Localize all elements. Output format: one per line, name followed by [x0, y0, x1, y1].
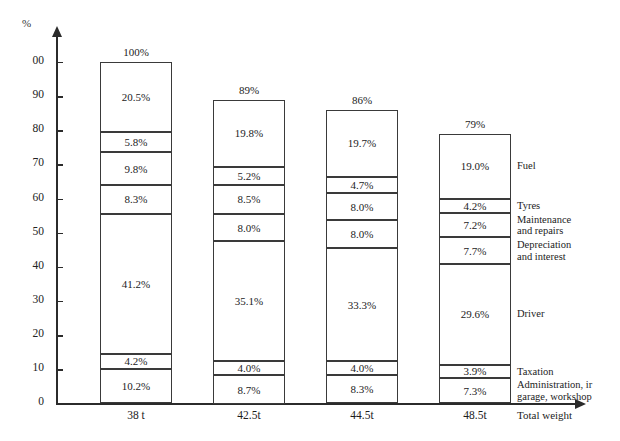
bar-segment-value-label: 35.1% — [235, 295, 263, 307]
y-axis-tick-mark — [56, 369, 63, 370]
bar-segment-value-label: 19.7% — [348, 137, 376, 149]
y-axis-unit-label: % — [22, 17, 31, 29]
y-axis-tick-label: 20 — [33, 327, 45, 339]
bar-segment-value-label: 41.2% — [122, 278, 150, 290]
bar-total-label: 89% — [213, 84, 285, 96]
bar-segment[interactable]: 19.8% — [213, 100, 285, 168]
legend-item: Administration, ir garage, workshop — [517, 379, 592, 402]
bar-total-label: 79% — [439, 118, 511, 130]
y-axis-tick-label: 40 — [33, 259, 45, 271]
bar-segment[interactable]: 8.5% — [213, 185, 285, 214]
bar-segment-value-label: 4.2% — [125, 355, 148, 367]
y-axis-tick-label: 0 — [38, 395, 44, 407]
bar-segment-value-label: 19.8% — [235, 127, 263, 139]
bar-segment[interactable]: 4.0% — [213, 361, 285, 375]
y-axis-tick-mark — [56, 130, 63, 131]
bar-segment[interactable]: 8.0% — [213, 214, 285, 241]
bar-segment[interactable]: 33.3% — [326, 248, 398, 362]
bar-segment-value-label: 7.2% — [464, 219, 487, 231]
bar-segment-value-label: 4.2% — [464, 200, 487, 212]
bar-segment[interactable]: 8.7% — [213, 375, 285, 405]
y-axis-tick-label: 10 — [33, 361, 45, 373]
y-axis-tick-mark — [56, 199, 63, 200]
y-axis-tick-mark — [56, 267, 63, 268]
bar-segment[interactable]: 8.3% — [100, 185, 172, 213]
bar-segment[interactable]: 19.0% — [439, 134, 511, 199]
x-axis-category-label: 42.5t — [191, 409, 307, 421]
x-axis-category-label: 44.5t — [304, 409, 420, 421]
bar-segment-value-label: 5.8% — [125, 136, 148, 148]
x-axis-category-label: 38 t — [78, 409, 194, 421]
bar-segment[interactable]: 8.0% — [326, 193, 398, 220]
bar-segment[interactable]: 4.2% — [439, 199, 511, 213]
bar-column[interactable]: 19.0%4.2%7.2%7.7%29.6%3.9%7.3%79% — [439, 134, 511, 404]
bar-column[interactable]: 19.7%4.7%8.0%8.0%33.3%4.0%8.3%86% — [326, 110, 398, 404]
bar-segment-value-label: 4.7% — [351, 179, 374, 191]
bar-segment[interactable]: 9.8% — [100, 152, 172, 185]
bar-total-label: 100% — [100, 46, 172, 58]
bar-segment-value-label: 8.0% — [351, 201, 374, 213]
y-axis-tick-mark — [56, 335, 63, 336]
stacked-bar-chart: % 010203040506070809000 38 t20.5%5.8%9.8… — [0, 0, 620, 441]
bar-segment-value-label: 33.3% — [348, 299, 376, 311]
bar-segment[interactable]: 19.7% — [326, 110, 398, 177]
legend-item: Depreciation and interest — [517, 239, 571, 262]
y-axis-tick-label: 70 — [33, 156, 45, 168]
y-axis-tick-label: 00 — [33, 54, 45, 66]
bar-segment-value-label: 19.0% — [461, 160, 489, 172]
bar-column[interactable]: 20.5%5.8%9.8%8.3%41.2%4.2%10.2%100% — [100, 62, 172, 403]
bar-segment-value-label: 9.8% — [125, 163, 148, 175]
bar-segment-value-label: 20.5% — [122, 91, 150, 103]
bar-segment-value-label: 7.7% — [464, 245, 487, 257]
x-axis-title: Total weight — [517, 409, 572, 421]
bar-segment-value-label: 8.3% — [351, 383, 374, 395]
y-axis-tick-mark — [56, 96, 63, 97]
bar-segment[interactable]: 29.6% — [439, 264, 511, 365]
bar-total-label: 86% — [326, 94, 398, 106]
y-axis-tick-label: 90 — [33, 88, 45, 100]
bar-column[interactable]: 19.8%5.2%8.5%8.0%35.1%4.0%8.7%89% — [213, 100, 285, 404]
legend-item: Tyres — [517, 200, 540, 212]
bar-segment[interactable]: 7.3% — [439, 378, 511, 403]
bar-segment[interactable]: 7.2% — [439, 213, 511, 238]
bar-segment-value-label: 7.3% — [464, 385, 487, 397]
bar-segment[interactable]: 10.2% — [100, 369, 172, 404]
bar-segment[interactable]: 4.2% — [100, 354, 172, 368]
bar-segment-value-label: 8.0% — [351, 228, 374, 240]
bar-segment-value-label: 8.7% — [238, 384, 261, 396]
bar-segment-value-label: 10.2% — [122, 380, 150, 392]
bar-segment-value-label: 5.2% — [238, 170, 261, 182]
bar-segment[interactable]: 4.7% — [326, 177, 398, 193]
bar-segment-value-label: 3.9% — [464, 365, 487, 377]
bar-segment[interactable]: 4.0% — [326, 361, 398, 375]
y-axis-tick-mark — [56, 301, 63, 302]
legend-item: Maintenance and repairs — [517, 214, 571, 237]
y-axis-tick-label: 50 — [33, 225, 45, 237]
y-axis-tick-label: 60 — [33, 191, 45, 203]
bar-segment[interactable]: 8.0% — [326, 220, 398, 247]
bar-segment[interactable]: 3.9% — [439, 365, 511, 378]
legend-item: Fuel — [517, 160, 536, 172]
y-axis-tick-mark — [56, 164, 63, 165]
y-axis-tick-label: 30 — [33, 293, 45, 305]
x-axis-category-label: 48.5t — [417, 409, 533, 421]
y-axis-arrow-icon — [52, 26, 62, 37]
bar-segment[interactable]: 5.2% — [213, 167, 285, 185]
bar-segment-value-label: 29.6% — [461, 308, 489, 320]
y-axis-line — [56, 34, 58, 404]
bar-segment[interactable]: 41.2% — [100, 214, 172, 355]
bar-segment[interactable]: 20.5% — [100, 62, 172, 132]
y-axis-tick-mark — [56, 62, 63, 63]
y-axis-tick-mark — [56, 233, 63, 234]
bar-segment[interactable]: 8.3% — [326, 375, 398, 403]
bar-segment-value-label: 4.0% — [351, 362, 374, 374]
bar-segment-value-label: 8.5% — [238, 193, 261, 205]
legend-item: Taxation — [517, 366, 554, 378]
legend-item: Driver — [517, 308, 544, 320]
bar-segment[interactable]: 7.7% — [439, 237, 511, 263]
bar-segment[interactable]: 35.1% — [213, 241, 285, 361]
bar-segment-value-label: 8.3% — [125, 193, 148, 205]
y-axis-tick-mark — [56, 403, 63, 404]
bar-segment[interactable]: 5.8% — [100, 132, 172, 152]
x-axis-line — [56, 403, 579, 405]
